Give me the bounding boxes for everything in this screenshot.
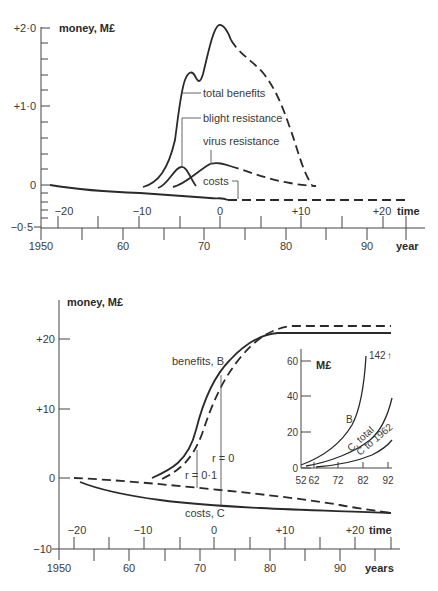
costs-curve [50,185,228,200]
top-ytick-neg: −0·5 [11,221,33,233]
top-time-label-p10: +10 [292,205,311,217]
bottom-time-label-m10: −10 [134,524,153,536]
costs-leader [232,181,238,199]
top-year-60: 60 [117,240,129,252]
inset-xtick-62: 62 [308,475,320,486]
bottom-time-label-p20: +20 [346,524,365,536]
top-year-ticks [82,228,406,240]
inset-ytick-60: 60 [287,356,299,367]
bottom-year-1950: 1950 [47,562,71,574]
top-ytick-1: +1·0 [14,100,36,112]
top-time-label-0: 0 [217,205,223,217]
top-time-label-p20: +20 [373,205,392,217]
bottom-y-label: money, M£ [67,296,123,308]
top-year-axis-label: year [396,240,419,252]
r0-label: r = 0 [212,452,234,464]
bottom-chart: +20 +10 0 −10 money, M£ [33,296,403,574]
bottom-year-80: 80 [264,562,276,574]
total-benefits-label: total benefits [203,87,266,99]
top-ytick-0: 0 [30,179,36,191]
bottom-time-label-m20: −20 [68,524,87,536]
figure: +2·0 +1·0 0 −0·5 money, M£ [0,0,438,591]
top-year-1950: 1950 [29,240,53,252]
top-time-ticks [58,216,406,228]
bottom-ytick-20: +20 [36,333,55,345]
inset-chart: 60 40 20 0 52 62 72 82 92 M£ 142 ↑ B C, … [287,347,403,487]
inset-xtick-92: 92 [382,475,394,486]
r01-label: r = 0·1 [185,469,217,481]
inset-xtick-72: 72 [332,475,344,486]
top-chart: +2·0 +1·0 0 −0·5 money, M£ [11,22,425,252]
up-arrow-icon: ↑ [387,350,392,361]
bottom-time-label-p10: +10 [276,524,295,536]
top-year-80: 80 [280,240,292,252]
bottom-year-ticks [94,549,375,561]
bottom-ytick-m10: −10 [33,543,52,555]
bottom-ytick-10: +10 [36,403,55,415]
bottom-time-ticks [74,537,391,549]
top-time-label-m20: −20 [55,205,74,217]
virus-resistance-projection [230,166,316,186]
bottom-year-60: 60 [123,562,135,574]
bottom-time-axis-label: time [369,524,392,536]
blight-resistance-leader [182,118,201,167]
virus-resistance-label: virus resistance [203,135,279,147]
top-y-ticks [34,28,50,227]
bottom-year-70: 70 [194,562,206,574]
inset-ytick-20: 20 [287,427,299,438]
costs-label: costs [203,175,229,187]
inset-xtick-82: 82 [357,475,369,486]
top-y-label: money, M£ [59,22,115,34]
inset-xtick-52: 52 [295,475,307,486]
inset-ytick-0: 0 [292,463,298,474]
inset-ytick-40: 40 [287,391,299,402]
blight-resistance-label: blight resistance [203,112,283,124]
top-year-70: 70 [198,240,210,252]
bottom-ytick-0: 0 [49,472,55,484]
top-time-label-m10: −10 [133,205,152,217]
inset-y-label: M£ [316,359,331,371]
top-time-axis-label: time [397,205,420,217]
inset-top-value: 142 [369,350,386,361]
inset-b-label: B [346,414,353,425]
bottom-y-ticks [52,339,70,549]
bottom-year-90: 90 [334,562,346,574]
bottom-time-label-0: 0 [211,524,217,536]
bottom-year-axis-label: years [365,562,394,574]
benefits-label: benefits, B [172,355,224,367]
top-ytick-2: +2·0 [14,22,36,34]
costs-label: costs, C [185,507,225,519]
top-year-90: 90 [361,240,373,252]
